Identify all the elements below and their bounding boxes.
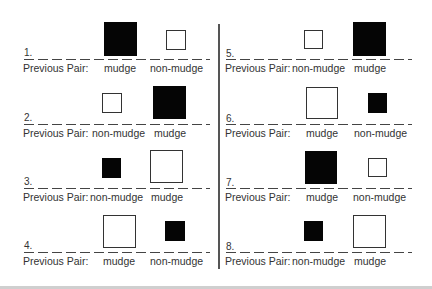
- previous-pair-label: Previous Pair:: [23, 128, 88, 139]
- previous-pair-label: Previous Pair:: [23, 256, 88, 267]
- dashed-line: [226, 59, 412, 60]
- right-label: non-mudge: [150, 63, 203, 74]
- previous-pair-label: Previous Pair:: [23, 63, 88, 74]
- dashed-line: [24, 252, 210, 253]
- large-black-square: [153, 86, 186, 119]
- large-white-square: [306, 87, 338, 119]
- small-black-square: [304, 221, 323, 241]
- right-label: mudge: [354, 256, 386, 267]
- left-label: mudge: [103, 256, 135, 267]
- small-white-square: [368, 158, 387, 177]
- right-label: non-mudge: [354, 128, 407, 139]
- trial-number: 4.: [24, 241, 32, 251]
- dashed-line: [24, 124, 210, 125]
- trial-number: 1.: [24, 48, 32, 58]
- large-black-square: [353, 22, 386, 56]
- previous-pair-label: Previous Pair:: [23, 192, 88, 203]
- small-black-square: [102, 158, 121, 178]
- left-label: non-mudge: [92, 128, 145, 139]
- trial-number: 6.: [226, 114, 234, 124]
- trial-number: 8.: [226, 242, 234, 252]
- small-black-square: [165, 221, 185, 241]
- trial-number: 7.: [226, 178, 234, 188]
- dashed-line: [24, 188, 210, 189]
- previous-pair-label: Previous Pair:: [225, 192, 290, 203]
- left-label: mudge: [104, 63, 136, 74]
- small-white-square: [304, 30, 323, 49]
- large-white-square: [103, 215, 136, 248]
- previous-pair-label: Previous Pair:: [225, 63, 290, 74]
- right-label: non-mudge: [150, 256, 203, 267]
- left-label: non-mudge: [292, 256, 345, 267]
- trial-number: 2.: [24, 113, 32, 123]
- left-label: non-mudge: [90, 192, 143, 203]
- large-white-square: [150, 150, 183, 183]
- large-white-square: [353, 215, 386, 248]
- trial-number: 3.: [24, 177, 32, 187]
- column-divider: [218, 24, 220, 269]
- dashed-line: [226, 252, 412, 253]
- small-white-square: [166, 30, 186, 50]
- right-label: non-mudge: [353, 192, 406, 203]
- small-white-square: [102, 93, 122, 113]
- small-black-square: [368, 93, 387, 113]
- left-label: non-mudge: [292, 63, 345, 74]
- left-label: mudge: [306, 128, 338, 139]
- dashed-line: [226, 188, 412, 189]
- large-black-square: [104, 22, 137, 56]
- previous-pair-label: Previous Pair:: [225, 128, 290, 139]
- right-label: mudge: [354, 63, 386, 74]
- large-black-square: [305, 151, 337, 184]
- left-label: mudge: [306, 192, 338, 203]
- previous-pair-label: Previous Pair:: [225, 256, 290, 267]
- right-label: mudge: [151, 192, 183, 203]
- right-label: mudge: [154, 128, 186, 139]
- dashed-line: [24, 59, 210, 60]
- dashed-line: [226, 124, 412, 125]
- trial-number: 5.: [226, 49, 234, 59]
